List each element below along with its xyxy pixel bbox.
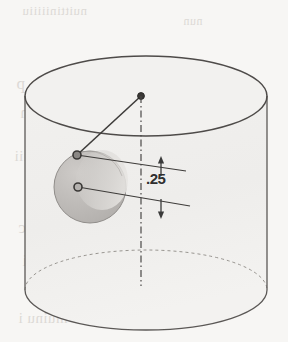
scanned-page: nuittiniiiiiu nun Gen xoti a p iiniiiiii…: [0, 0, 288, 342]
dimension-label: .25: [146, 170, 165, 187]
figure-drawing: [0, 0, 288, 342]
sphere-top-point-dot: [73, 151, 81, 159]
sphere-center-point-dot: [74, 183, 82, 191]
